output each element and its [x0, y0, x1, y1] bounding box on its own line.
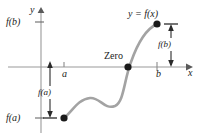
curve-equation-label: y = f(x): [128, 9, 158, 19]
fa-measure-arrowhead-down: [47, 111, 53, 118]
point-b-dot: [153, 20, 160, 27]
y-tick-label-f-of-a: f(a): [6, 113, 20, 123]
fb-measurement-label: f(b): [158, 40, 171, 49]
x-axis-label: x: [188, 68, 192, 78]
function-curve: [64, 24, 157, 118]
fb-measure-arrowhead-down: [168, 60, 174, 67]
zero-annotation-label: Zero: [104, 51, 123, 61]
figure-intermediate-value-theorem: y x f(b) f(a) a b Zero y = f(x) f(a) f(b…: [0, 0, 203, 139]
point-a-dot: [60, 114, 67, 121]
y-axis-arrowhead: [38, 7, 45, 13]
graph-canvas: [0, 0, 203, 139]
x-tick-label-a: a: [62, 69, 67, 79]
y-tick-label-f-of-b: f(b): [6, 17, 20, 27]
x-tick-label-b: b: [156, 69, 161, 79]
point-zero-dot: [124, 63, 131, 70]
y-axis-label: y: [30, 5, 34, 15]
fb-measure-arrowhead-up: [168, 24, 174, 31]
fa-measurement-label: f(a): [38, 88, 51, 97]
fa-measure-arrowhead-up: [47, 61, 53, 68]
